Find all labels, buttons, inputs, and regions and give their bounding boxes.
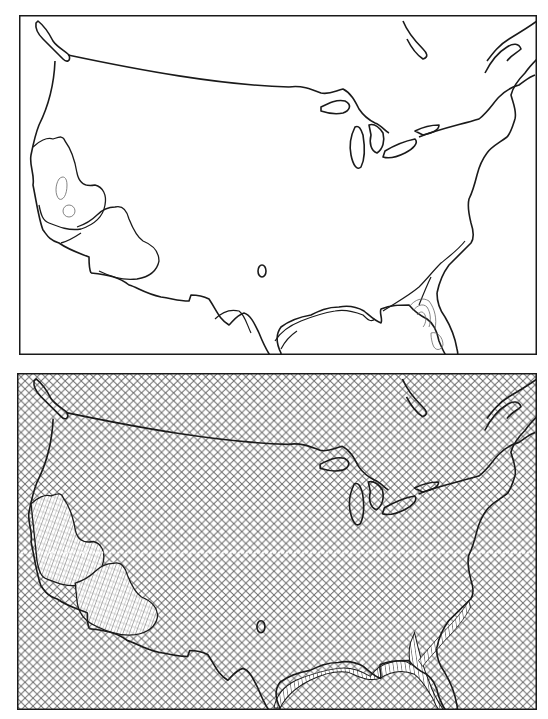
bottom-map-panel bbox=[17, 373, 537, 710]
map-frame bbox=[20, 16, 537, 355]
contour-map bbox=[19, 15, 537, 355]
crosshatch-map bbox=[17, 373, 537, 710]
top-map-panel bbox=[19, 15, 537, 355]
